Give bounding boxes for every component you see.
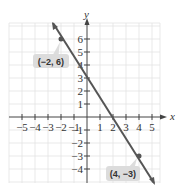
svg-text:6: 6: [78, 33, 84, 45]
svg-text:1: 1: [97, 121, 103, 133]
x-axis-arrow-icon: [160, 115, 167, 120]
point-4-neg3: [137, 154, 142, 159]
svg-text:−5: −5: [16, 121, 28, 133]
svg-text:−4: −4: [71, 163, 83, 175]
svg-text:−2: −2: [71, 137, 83, 149]
point-neg2-6: [59, 37, 64, 42]
svg-text:−2: −2: [55, 121, 67, 133]
svg-text:−3: −3: [71, 150, 83, 162]
grid: [9, 23, 160, 183]
x-tick-labels: −5 −4 −3 −2 −1 1 2 3 4 5: [16, 121, 155, 133]
callout-label-point1: (−2, 6): [38, 57, 64, 67]
svg-text:5: 5: [149, 121, 155, 133]
y-axis-label: y: [83, 8, 89, 20]
x-axis-label: x: [169, 110, 175, 122]
callout-point2: (4, −3): [106, 158, 140, 181]
data-line: [52, 22, 155, 185]
svg-text:−3: −3: [42, 121, 54, 133]
svg-text:3: 3: [78, 72, 84, 84]
y-axis: [85, 18, 90, 183]
coordinate-plane: −5 −4 −3 −2 −1 1 2 3 4 5 6 5 4 3 2 1 −1 …: [0, 0, 181, 194]
svg-text:1: 1: [78, 98, 84, 110]
callout-label-point2: (4, −3): [110, 169, 136, 179]
svg-text:2: 2: [78, 85, 84, 97]
svg-text:5: 5: [78, 46, 84, 58]
callout-point1: (−2, 6): [33, 42, 69, 68]
x-axis: [9, 115, 167, 120]
svg-text:−1: −1: [71, 124, 83, 136]
svg-text:−4: −4: [29, 121, 41, 133]
svg-text:3: 3: [123, 121, 129, 133]
svg-text:4: 4: [136, 121, 142, 133]
